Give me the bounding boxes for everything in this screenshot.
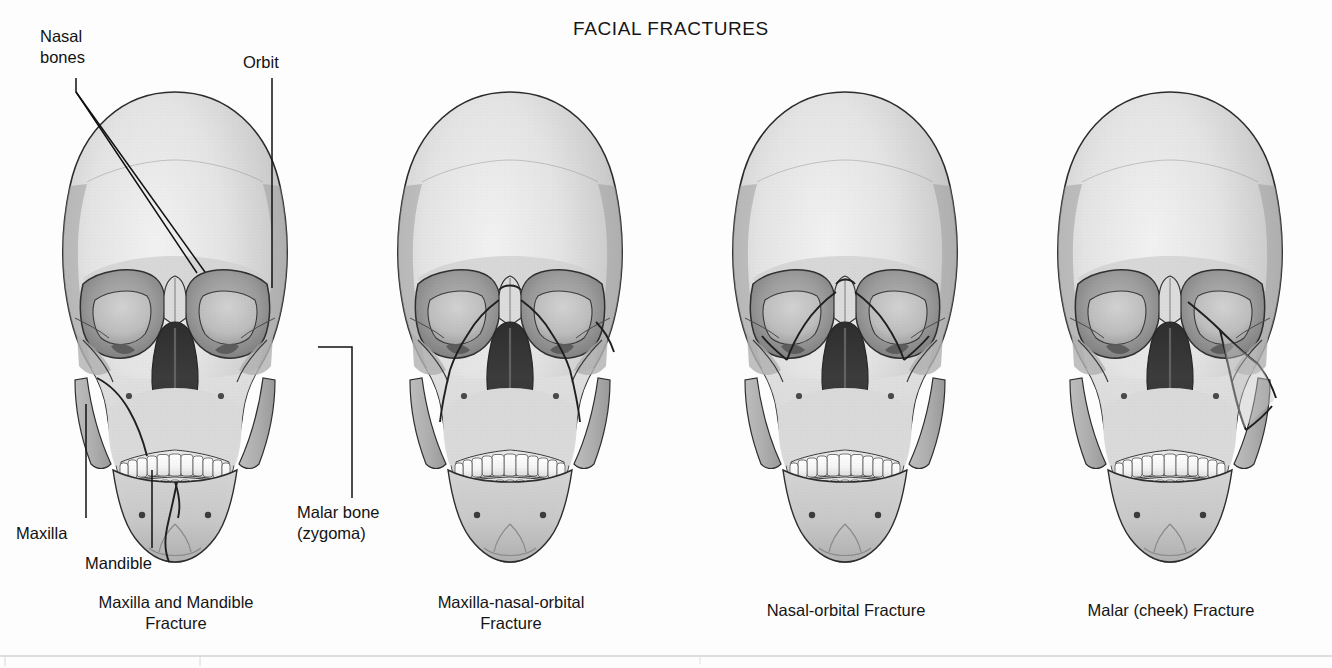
facial-fractures-figure: FACIAL FRACTURES <box>0 0 1332 668</box>
skull-diagram-1 <box>25 78 325 578</box>
caption-panel-3: Nasal-orbital Fracture <box>686 600 1006 621</box>
label-malar-bone: Malar bone (zygoma) <box>297 502 380 544</box>
figure-title: FACIAL FRACTURES <box>0 18 1332 40</box>
caption-panel-4: Malar (cheek) Fracture <box>1011 600 1331 621</box>
caption-panel-2: Maxilla-nasal-orbital Fracture <box>351 592 671 634</box>
label-orbit: Orbit <box>243 52 279 73</box>
label-maxilla: Maxilla <box>16 523 67 544</box>
skull-panel-nasal-orbital <box>695 78 995 578</box>
skull-panel-maxilla-nasal-orbital <box>360 78 660 578</box>
label-nasal-bones: Nasal bones <box>40 26 85 68</box>
skull-diagram-4 <box>1020 78 1320 578</box>
footer-divider <box>0 653 1332 667</box>
skull-diagram-2 <box>360 78 660 578</box>
skull-panel-malar <box>1020 78 1320 578</box>
label-mandible: Mandible <box>85 553 152 574</box>
figure-title-text: FACIAL FRACTURES <box>573 18 769 40</box>
skull-diagram-3 <box>695 78 995 578</box>
skull-panel-maxilla-mandible <box>25 78 325 578</box>
caption-panel-1: Maxilla and Mandible Fracture <box>16 592 336 634</box>
